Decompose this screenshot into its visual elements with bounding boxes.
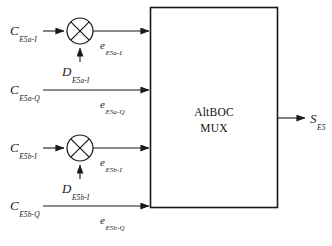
label-data-e5a-i: DE5a-I <box>62 63 89 82</box>
label-data-e5b-i: DE5b-I <box>62 180 89 199</box>
label-output-e5: SE5 <box>310 110 325 129</box>
label-carrier-e5a-i-base: C <box>10 23 19 38</box>
label-output-e5-base: S <box>310 111 317 126</box>
altboc-mux-label: AltBOC MUX <box>150 105 278 136</box>
label-modulated-e5b-q: eE5b-Q <box>100 211 124 230</box>
label-carrier-e5a-q: CE5a-Q <box>10 81 39 100</box>
label-carrier-e5a-i: CE5a-I <box>10 22 36 41</box>
label-carrier-e5a-i-sub: E5a-I <box>19 35 37 44</box>
label-data-e5a-i-sub: E5a-I <box>72 76 90 85</box>
altboc-mux-label-line1: AltBOC <box>150 105 278 121</box>
label-carrier-e5b-i-sub: E5b-I <box>19 152 37 161</box>
label-data-e5a-i-base: D <box>62 64 71 79</box>
label-carrier-e5b-i: CE5b-I <box>10 139 36 158</box>
label-carrier-e5b-q: CE5b-Q <box>10 197 39 216</box>
label-carrier-e5a-q-base: C <box>10 82 19 97</box>
label-output-e5-sub: E5 <box>317 123 326 132</box>
label-modulated-e5a-q-sub: E5a-Q <box>105 108 124 116</box>
label-carrier-e5b-q-sub: E5b-Q <box>19 210 40 219</box>
label-modulated-e5a-i: eE5a-I <box>100 36 121 55</box>
figure-canvas: AltBOC MUX CE5a-I DE5a-I eE5a-I CE5a-Q e… <box>0 0 332 246</box>
label-modulated-e5b-i: eE5b-I <box>100 153 121 172</box>
label-data-e5b-i-base: D <box>62 181 71 196</box>
label-carrier-e5b-q-base: C <box>10 198 19 213</box>
altboc-mux-label-line2: MUX <box>150 121 278 137</box>
label-modulated-e5a-i-sub: E5a-I <box>105 49 121 57</box>
label-carrier-e5a-q-sub: E5a-Q <box>19 94 40 103</box>
label-modulated-e5b-i-sub: E5b-I <box>105 166 121 174</box>
label-modulated-e5a-q: eE5a-Q <box>100 95 124 114</box>
label-modulated-e5b-q-sub: E5b-Q <box>105 224 124 232</box>
label-carrier-e5b-i-base: C <box>10 140 19 155</box>
label-data-e5b-i-sub: E5b-I <box>72 193 90 202</box>
